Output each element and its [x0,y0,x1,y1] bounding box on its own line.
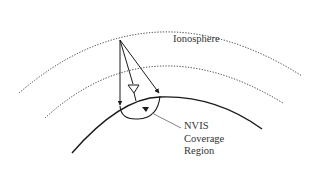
ionosphere-inner-layer [45,66,283,118]
nvis-coverage-label: NVIS Coverage Region [184,120,224,158]
nvis-label-line-3: Region [184,145,224,158]
earth-surface [72,97,262,153]
nvis-label-line-2: Coverage [184,133,224,146]
label-pointer-line [152,113,181,128]
ionosphere-label: Ionosphere [173,33,220,44]
nvis-diagram-graphic [0,0,316,170]
antenna-icon [128,85,139,101]
ionosphere-outer-layer [19,32,302,93]
ray-to-antenna [120,40,133,84]
nvis-label-line-1: NVIS [184,120,224,133]
coverage-marker-icon [142,107,149,112]
